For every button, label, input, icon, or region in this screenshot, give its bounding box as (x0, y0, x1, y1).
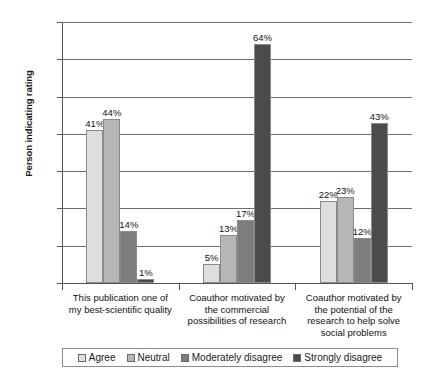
y-tick-mark (57, 22, 62, 23)
legend-item[interactable]: Strongly disagree (293, 352, 382, 363)
group-separator (179, 283, 180, 290)
bar (120, 231, 137, 283)
chart-legend: AgreeNeutralModerately disagreeStrongly … (62, 348, 398, 367)
x-axis-category-label: Coauthor motivated bythe commercialpossi… (179, 292, 296, 327)
legend-swatch-icon (78, 354, 86, 362)
x-axis-label-line: Coauthor motivated by (179, 292, 296, 304)
x-axis-label-line: social problems (295, 327, 412, 339)
bar-value-label: 44% (102, 107, 121, 118)
bar (86, 130, 103, 283)
x-axis-label-line: the commercial (179, 304, 296, 316)
legend-item[interactable]: Moderately disagree (181, 352, 283, 363)
group-separator (412, 283, 413, 290)
y-axis-title: Person indicating rating (23, 44, 34, 204)
gridline (62, 22, 412, 23)
x-axis-label-line: research to help solve (295, 315, 412, 327)
y-tick-mark (57, 97, 62, 98)
legend-label: Neutral (138, 352, 170, 363)
bar-value-label: 17% (236, 208, 255, 219)
bar-value-label: 5% (205, 252, 219, 263)
legend-item[interactable]: Agree (78, 352, 116, 363)
bar (371, 123, 388, 283)
x-axis-label-line: the potential of the (295, 304, 412, 316)
bar (103, 119, 120, 283)
bar-value-label: 1% (139, 267, 153, 278)
bar-value-label: 14% (119, 219, 138, 230)
bar (237, 220, 254, 283)
x-axis-label-line: This publication one of (62, 292, 179, 304)
legend-swatch-icon (293, 354, 301, 362)
legend-swatch-icon (181, 354, 189, 362)
bar-chart: Person indicating rating 0%10%20%30%40%5… (0, 0, 421, 384)
bar-value-label: 23% (336, 185, 355, 196)
y-tick-mark (57, 171, 62, 172)
gridline (62, 97, 412, 98)
bar (220, 235, 237, 283)
y-tick-mark (57, 59, 62, 60)
bar-value-label: 43% (370, 111, 389, 122)
y-tick-mark (57, 134, 62, 135)
legend-label: Agree (89, 352, 116, 363)
legend-item[interactable]: Neutral (127, 352, 170, 363)
gridline (62, 59, 412, 60)
y-tick-mark (57, 246, 62, 247)
legend-label: Strongly disagree (304, 352, 382, 363)
y-axis-line (62, 22, 63, 283)
x-axis-category-label: This publication one ofmy best-scientifi… (62, 292, 179, 315)
bar-value-label: 41% (85, 118, 104, 129)
legend-label: Moderately disagree (192, 352, 283, 363)
x-axis-label-line: my best-scientific quality (62, 304, 179, 316)
bar (354, 238, 371, 283)
x-axis-label-line: Coauthor motivated by (295, 292, 412, 304)
bar-value-label: 13% (219, 223, 238, 234)
plot-area: 0%10%20%30%40%50%60%70% 41%44%14%1%5%13%… (62, 22, 412, 283)
bar-value-label: 64% (253, 32, 272, 43)
bar (337, 197, 354, 283)
legend-swatch-icon (127, 354, 135, 362)
x-axis-category-label: Coauthor motivated bythe potential of th… (295, 292, 412, 338)
x-axis-line (62, 283, 412, 284)
group-separator (295, 283, 296, 290)
bar (203, 264, 220, 283)
bar-value-label: 12% (353, 226, 372, 237)
bar (254, 44, 271, 283)
bar (320, 201, 337, 283)
bar (137, 279, 154, 283)
group-separator (62, 283, 63, 290)
y-tick-mark (57, 208, 62, 209)
x-axis-label-line: possibilities of research (179, 315, 296, 327)
